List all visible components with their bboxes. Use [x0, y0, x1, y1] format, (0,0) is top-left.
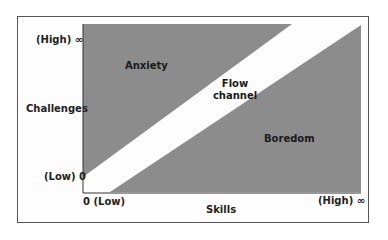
flow-label-line1: Flow: [210, 78, 260, 90]
x-axis-high-label: (High) ∞: [318, 195, 365, 206]
flow-label-line2: channel: [210, 90, 260, 102]
x-axis-low-label: 0 (Low): [83, 196, 125, 207]
y-axis-high-label: (High) ∞: [36, 34, 83, 45]
anxiety-label: Anxiety: [125, 60, 168, 72]
y-axis-title: Challenges: [26, 103, 88, 114]
y-axis-low-label: (Low) 0: [44, 171, 86, 182]
boredom-label: Boredom: [264, 133, 315, 145]
flow-channel-label: Flow channel: [210, 78, 260, 102]
x-axis-title: Skills: [206, 204, 236, 215]
